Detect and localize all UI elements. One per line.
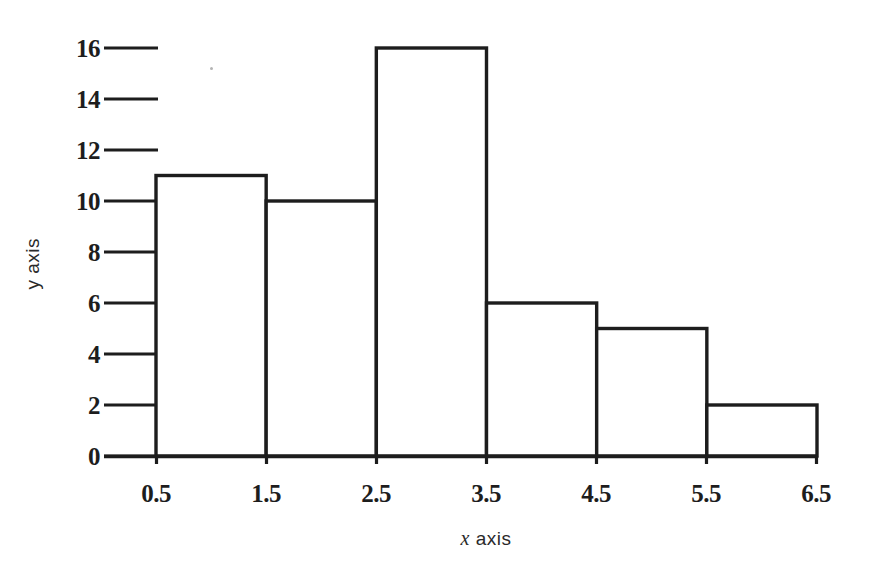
y-tick-label-14: 14 xyxy=(58,87,100,112)
x-axis-title-word: axis xyxy=(476,528,512,549)
bar-bin-5 xyxy=(597,329,707,457)
scan-speck xyxy=(210,67,213,70)
x-axis-title: x axis xyxy=(461,527,512,550)
y-tick-label-12: 12 xyxy=(58,138,100,163)
y-axis-ticks xyxy=(104,48,158,456)
bar-bin-3 xyxy=(376,48,486,456)
histogram-figure: 16 14 12 10 8 6 4 2 0 0.5 1.5 2.5 3.5 4.… xyxy=(0,0,876,576)
x-tick-label-0-5: 0.5 xyxy=(141,481,171,506)
y-tick-label-6: 6 xyxy=(58,291,100,316)
x-tick-label-2-5: 2.5 xyxy=(361,481,391,506)
y-tick-label-2: 2 xyxy=(58,393,100,418)
x-tick-label-5-5: 5.5 xyxy=(691,481,721,506)
histogram-plot-area xyxy=(0,0,876,576)
bar-bin-1 xyxy=(156,176,266,457)
y-tick-label-16: 16 xyxy=(58,36,100,61)
bar-bin-2 xyxy=(266,201,376,456)
x-axis-title-variable: x xyxy=(461,527,470,549)
bar-bin-6 xyxy=(707,405,817,456)
y-tick-label-10: 10 xyxy=(58,189,100,214)
y-tick-label-4: 4 xyxy=(58,342,100,367)
bar-bin-4 xyxy=(487,303,597,456)
x-tick-label-6-5: 6.5 xyxy=(801,481,831,506)
y-axis-title: y axis xyxy=(22,238,44,290)
histogram-bars xyxy=(156,48,817,456)
x-tick-label-3-5: 3.5 xyxy=(471,481,501,506)
y-tick-label-0: 0 xyxy=(58,444,100,469)
y-tick-label-8: 8 xyxy=(58,240,100,265)
x-tick-label-4-5: 4.5 xyxy=(581,481,611,506)
x-tick-label-1-5: 1.5 xyxy=(251,481,281,506)
